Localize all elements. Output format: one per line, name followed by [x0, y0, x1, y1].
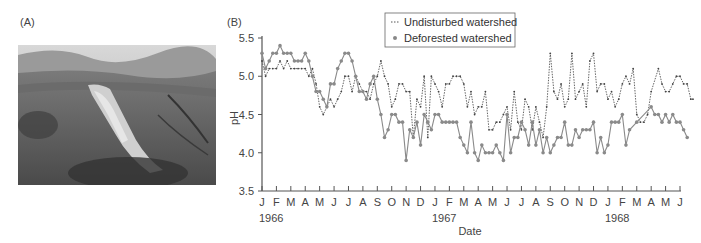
x-tick-label: J: [432, 196, 438, 208]
year-label: 1967: [432, 212, 456, 224]
data-point: [552, 143, 556, 147]
data-point: [595, 151, 599, 155]
data-point: [286, 60, 288, 62]
x-axis-ticks: JFMAMJJASONDJFMAMJJASONDJFMAMJ: [259, 186, 683, 208]
data-point: [535, 106, 537, 108]
x-tick-label: M: [632, 196, 641, 208]
x-tick-label: J: [259, 196, 265, 208]
y-tick-label: 4.0: [239, 147, 254, 159]
data-point: [553, 91, 555, 93]
data-point: [578, 91, 580, 93]
data-point: [463, 83, 465, 85]
data-point: [477, 106, 479, 108]
x-tick-label: M: [488, 196, 497, 208]
data-point: [319, 106, 321, 108]
data-point: [524, 98, 526, 100]
data-point: [571, 52, 573, 54]
data-point: [275, 52, 279, 56]
data-point: [657, 113, 661, 117]
data-point: [474, 114, 476, 116]
data-point: [434, 83, 436, 85]
data-point: [466, 151, 470, 155]
data-point: [304, 68, 306, 70]
y-tick-label: 5.0: [239, 70, 254, 82]
data-point: [427, 137, 429, 139]
data-point: [456, 75, 458, 77]
data-point: [279, 60, 281, 62]
data-point: [603, 83, 605, 85]
data-point: [412, 136, 416, 140]
data-point: [379, 113, 383, 117]
data-point: [498, 151, 502, 155]
data-point: [426, 120, 430, 124]
data-point: [485, 91, 487, 93]
data-point: [581, 128, 585, 132]
data-point: [293, 59, 297, 63]
data-point: [394, 113, 398, 117]
data-point: [614, 106, 616, 108]
legend-circle-marker-icon: [393, 36, 397, 40]
data-point: [618, 98, 620, 100]
data-point: [538, 128, 542, 132]
data-point: [610, 120, 614, 124]
data-point: [566, 143, 570, 147]
line-undisturbed: [262, 53, 693, 137]
x-tick-label: A: [302, 196, 310, 208]
data-point: [657, 68, 659, 70]
data-point: [369, 98, 371, 100]
data-point: [539, 121, 541, 123]
data-point: [603, 151, 607, 155]
data-point: [667, 120, 671, 124]
data-point: [440, 120, 444, 124]
data-point: [351, 91, 353, 93]
data-point: [647, 114, 649, 116]
x-tick-label: F: [273, 196, 280, 208]
data-point: [559, 136, 563, 140]
data-point: [401, 120, 405, 124]
data-point: [339, 59, 343, 63]
data-point: [315, 83, 317, 85]
year-label: 1966: [259, 212, 283, 224]
data-point: [548, 151, 552, 155]
x-tick-label: M: [315, 196, 324, 208]
x-tick-label: F: [446, 196, 453, 208]
x-tick-label: S: [374, 196, 381, 208]
data-point: [625, 75, 627, 77]
data-point: [585, 128, 589, 132]
data-series: [260, 44, 694, 162]
data-point: [487, 151, 491, 155]
x-tick-label: D: [590, 196, 598, 208]
x-tick-label: M: [286, 196, 295, 208]
legend-label-undisturbed: Undisturbed watershed: [404, 16, 517, 28]
x-tick-label: J: [677, 196, 683, 208]
data-point: [337, 98, 339, 100]
data-point: [635, 120, 639, 124]
data-point: [506, 106, 508, 108]
data-point: [333, 106, 335, 108]
data-point: [445, 83, 447, 85]
data-point: [350, 59, 354, 63]
data-point: [664, 113, 668, 117]
data-point: [267, 59, 271, 63]
data-point: [492, 129, 494, 131]
x-tick-label: M: [661, 196, 670, 208]
data-point: [600, 83, 602, 85]
x-tick-label: J: [605, 196, 611, 208]
data-point: [444, 120, 448, 124]
data-point: [343, 52, 347, 56]
data-point: [383, 136, 387, 140]
data-point: [264, 67, 268, 71]
data-point: [404, 159, 408, 163]
data-point: [476, 159, 480, 163]
data-point: [384, 75, 386, 77]
data-point: [592, 120, 596, 124]
line-deforested: [262, 46, 687, 161]
data-point: [629, 83, 631, 85]
data-point: [394, 98, 396, 100]
data-point: [549, 52, 551, 54]
data-point: [361, 90, 365, 94]
data-point: [303, 52, 307, 56]
data-point: [509, 151, 513, 155]
legend: Undisturbed watershed Deforested watersh…: [385, 13, 517, 47]
data-point: [438, 91, 440, 93]
